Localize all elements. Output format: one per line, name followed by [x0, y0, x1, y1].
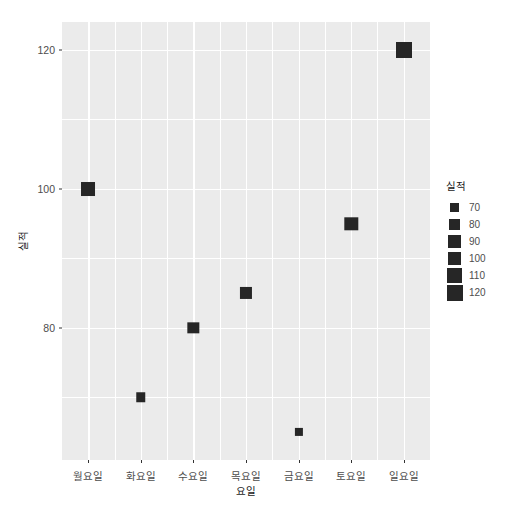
scatter-plot-chart: 80100120월요일화요일수요일목요일금요일토요일일요일 실적 요일 실적 7…: [0, 0, 508, 526]
legend-entries: 708090100110120: [446, 199, 506, 301]
x-axis-tick-mark: [404, 460, 405, 463]
legend-entry: 100: [446, 250, 506, 267]
x-axis-tick-mark: [88, 460, 89, 463]
grid-line-major-vertical: [193, 22, 194, 460]
legend-key: [446, 267, 463, 284]
legend-swatch-square-icon: [447, 285, 463, 301]
data-point-월요일: [81, 182, 95, 196]
legend-swatch-square-icon: [448, 252, 462, 266]
x-axis-tick-label: 목요일: [231, 468, 261, 483]
y-axis-tick-label: 100: [37, 183, 55, 195]
legend-key: [446, 233, 463, 250]
y-axis-title: 실적: [15, 231, 30, 251]
legend-swatch-square-icon: [449, 219, 460, 230]
x-axis-tick-label: 수요일: [178, 468, 208, 483]
data-point-토요일: [344, 217, 357, 230]
grid-line-major-vertical: [404, 22, 405, 460]
x-axis-tick-mark: [351, 460, 352, 463]
x-axis-tick-mark: [299, 460, 300, 463]
legend-entry: 120: [446, 284, 506, 301]
y-axis-tick-label: 120: [37, 44, 55, 56]
y-axis-tick-mark: [59, 49, 62, 50]
legend-label: 110: [469, 270, 485, 281]
legend-label: 120: [469, 287, 486, 298]
legend-swatch-square-icon: [448, 235, 461, 248]
legend-entry: 80: [446, 216, 506, 233]
legend-entry: 90: [446, 233, 506, 250]
legend-label: 100: [469, 253, 486, 264]
y-axis-tick-mark: [59, 188, 62, 189]
x-axis-tick-label: 금요일: [284, 468, 314, 483]
grid-line-minor-vertical: [167, 22, 168, 460]
x-axis-tick-mark: [246, 460, 247, 463]
legend-key: [446, 216, 463, 233]
data-point-일요일: [396, 42, 412, 58]
grid-line-major-vertical: [299, 22, 300, 460]
x-axis-tick-mark: [141, 460, 142, 463]
legend-key: [446, 250, 463, 267]
grid-line-minor-vertical: [272, 22, 273, 460]
data-point-금요일: [294, 428, 302, 436]
y-axis-tick-label: 80: [43, 322, 55, 334]
grid-line-major-vertical: [88, 22, 89, 460]
y-axis-tick-mark: [59, 327, 62, 328]
legend: 실적 708090100110120: [446, 178, 506, 301]
data-point-수요일: [188, 322, 199, 333]
legend-entry: 110: [446, 267, 506, 284]
legend-key: [446, 284, 463, 301]
grid-line-minor-vertical: [325, 22, 326, 460]
legend-swatch-square-icon: [450, 203, 459, 212]
data-point-화요일: [136, 393, 145, 402]
grid-line-major-vertical: [351, 22, 352, 460]
legend-entry: 70: [446, 199, 506, 216]
x-axis-tick-label: 월요일: [73, 468, 103, 483]
legend-label: 70: [469, 202, 480, 213]
data-point-목요일: [240, 287, 252, 299]
x-axis-tick-label: 화요일: [126, 468, 156, 483]
grid-line-minor-vertical: [115, 22, 116, 460]
x-axis-tick-label: 일요일: [389, 468, 419, 483]
legend-swatch-square-icon: [447, 268, 462, 283]
grid-line-minor-vertical: [377, 22, 378, 460]
legend-label: 80: [469, 219, 480, 230]
legend-key: [446, 199, 463, 216]
legend-title: 실적: [446, 178, 506, 193]
grid-line-minor-vertical: [220, 22, 221, 460]
x-axis-tick-mark: [193, 460, 194, 463]
plot-panel: [62, 22, 430, 460]
x-axis-title: 요일: [62, 483, 430, 498]
grid-line-major-vertical: [246, 22, 247, 460]
x-axis-tick-label: 토요일: [336, 468, 366, 483]
legend-label: 90: [469, 236, 480, 247]
